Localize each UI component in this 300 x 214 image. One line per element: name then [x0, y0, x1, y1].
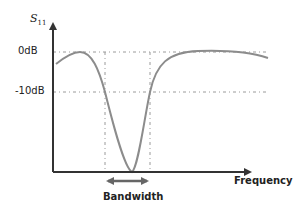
s11-curve: [56, 51, 268, 172]
ytick-minus-10db: -10dB: [15, 85, 45, 96]
bandwidth-label: Bandwidth: [103, 191, 163, 202]
y-axis-label-sub: 11: [38, 19, 47, 27]
y-axis-label: S11: [30, 12, 46, 27]
y-axis-label-main: S: [30, 12, 38, 25]
x-axis-label: Frequency: [234, 175, 293, 186]
ytick-0db: 0dB: [18, 45, 38, 56]
